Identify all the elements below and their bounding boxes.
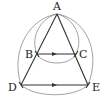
arc-a-e xyxy=(57,14,93,85)
label-a: A xyxy=(53,1,61,12)
label-b: B xyxy=(25,49,33,60)
geometry-diagram: A B C D E xyxy=(0,0,105,104)
arrow-icon-de xyxy=(52,83,57,87)
arc-b-c xyxy=(37,54,76,63)
arrow-icon-bc xyxy=(52,52,57,56)
arc-d-e xyxy=(21,85,88,95)
label-d: D xyxy=(8,82,17,93)
arc-a-c xyxy=(57,14,79,54)
label-e: E xyxy=(92,82,100,93)
label-c: C xyxy=(79,49,87,60)
